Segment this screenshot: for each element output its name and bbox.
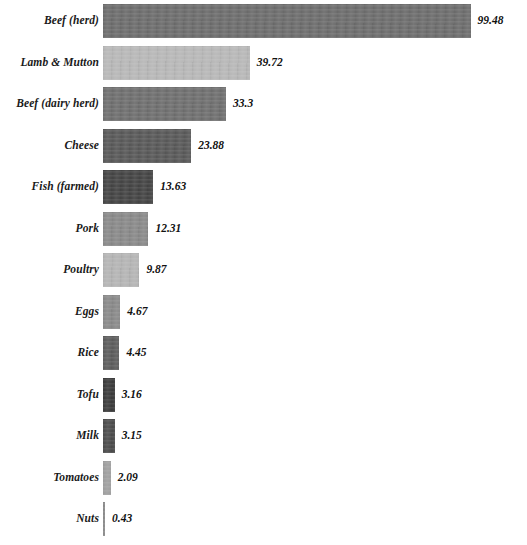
bar-row: Nuts0.43 xyxy=(0,502,527,536)
bar-row: Rice4.45 xyxy=(0,336,527,370)
bar-texture xyxy=(103,212,148,246)
category-label: Poultry xyxy=(0,264,99,276)
value-label: 99.48 xyxy=(478,15,504,27)
bar-texture xyxy=(103,336,119,370)
bar xyxy=(103,212,148,246)
bar-and-value: 39.72 xyxy=(103,46,283,80)
category-label: Beef (herd) xyxy=(0,15,99,27)
bar xyxy=(103,461,111,495)
bar-row: Pork12.31 xyxy=(0,212,527,246)
bar-texture xyxy=(103,502,105,536)
bar-row: Beef (herd)99.48 xyxy=(0,4,527,38)
bar-and-value: 33.3 xyxy=(103,87,253,121)
value-label: 12.31 xyxy=(155,223,181,235)
value-label: 9.87 xyxy=(146,264,166,276)
value-label: 4.67 xyxy=(127,306,147,318)
bar xyxy=(103,295,120,329)
bar-texture xyxy=(103,46,250,80)
bar xyxy=(103,87,226,121)
category-label: Pork xyxy=(0,223,99,235)
bar-texture xyxy=(103,419,115,453)
category-label: Nuts xyxy=(0,513,99,525)
category-label: Cheese xyxy=(0,140,99,152)
bar-row: Beef (dairy herd)33.3 xyxy=(0,87,527,121)
bar-texture xyxy=(103,170,153,204)
bar-and-value: 3.16 xyxy=(103,378,142,412)
bar xyxy=(103,46,250,80)
bar-and-value: 9.87 xyxy=(103,253,167,287)
value-label: 0.43 xyxy=(112,513,132,525)
bar xyxy=(103,336,119,370)
bar-row: Tofu3.16 xyxy=(0,378,527,412)
category-label: Rice xyxy=(0,347,99,359)
bar xyxy=(103,170,153,204)
value-label: 33.3 xyxy=(233,98,253,110)
bar-and-value: 2.09 xyxy=(103,461,138,495)
bar-and-value: 99.48 xyxy=(103,4,503,38)
category-label: Tomatoes xyxy=(0,472,99,484)
bar-row: Cheese23.88 xyxy=(0,129,527,163)
bar-and-value: 23.88 xyxy=(103,129,224,163)
bar xyxy=(103,419,115,453)
bar xyxy=(103,502,105,536)
value-label: 23.88 xyxy=(198,140,224,152)
bar-texture xyxy=(103,378,115,412)
bar-and-value: 3.15 xyxy=(103,419,142,453)
bar xyxy=(103,378,115,412)
bar-and-value: 4.67 xyxy=(103,295,147,329)
category-label: Beef (dairy herd) xyxy=(0,98,99,110)
bar-texture xyxy=(103,461,111,495)
horizontal-bar-chart: Beef (herd)99.48Lamb & Mutton39.72Beef (… xyxy=(0,0,527,545)
bar xyxy=(103,129,191,163)
category-label: Lamb & Mutton xyxy=(0,57,99,69)
value-label: 13.63 xyxy=(160,181,186,193)
bar-and-value: 0.43 xyxy=(103,502,132,536)
bar-row: Poultry9.87 xyxy=(0,253,527,287)
bar-row: Lamb & Mutton39.72 xyxy=(0,46,527,80)
bar-texture xyxy=(103,87,226,121)
bar-row: Milk3.15 xyxy=(0,419,527,453)
bar xyxy=(103,4,471,38)
value-label: 3.16 xyxy=(122,389,142,401)
category-label: Milk xyxy=(0,430,99,442)
bar-and-value: 12.31 xyxy=(103,212,181,246)
bar-texture xyxy=(103,129,191,163)
category-label: Tofu xyxy=(0,389,99,401)
bar-row: Eggs4.67 xyxy=(0,295,527,329)
value-label: 39.72 xyxy=(257,57,283,69)
bar-row: Tomatoes2.09 xyxy=(0,461,527,495)
bar-texture xyxy=(103,4,471,38)
bar-row: Fish (farmed)13.63 xyxy=(0,170,527,204)
bar-texture xyxy=(103,295,120,329)
category-label: Eggs xyxy=(0,306,99,318)
bar-texture xyxy=(103,253,139,287)
bar-and-value: 4.45 xyxy=(103,336,147,370)
value-label: 2.09 xyxy=(118,472,138,484)
value-label: 4.45 xyxy=(126,347,146,359)
bar-and-value: 13.63 xyxy=(103,170,186,204)
category-label: Fish (farmed) xyxy=(0,181,99,193)
bar xyxy=(103,253,139,287)
value-label: 3.15 xyxy=(122,430,142,442)
